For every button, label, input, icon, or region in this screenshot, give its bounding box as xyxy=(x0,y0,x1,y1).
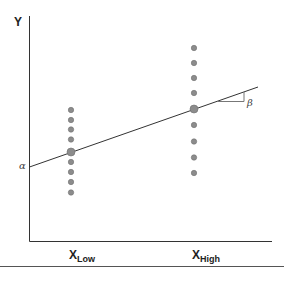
data-point xyxy=(191,45,196,50)
data-point xyxy=(68,179,73,184)
data-point xyxy=(68,169,73,174)
data-point xyxy=(191,155,196,160)
data-point xyxy=(68,190,73,195)
data-point xyxy=(68,159,73,164)
x-high-dots xyxy=(190,45,198,175)
intercept-label: α xyxy=(19,160,26,171)
x-low-label-sub: Low xyxy=(77,254,95,264)
data-point xyxy=(191,60,196,65)
mean-point xyxy=(190,105,198,113)
data-point xyxy=(191,122,196,127)
data-point xyxy=(68,127,73,132)
regression-line xyxy=(30,87,259,167)
data-point xyxy=(191,170,196,175)
slope-label: β xyxy=(247,97,253,108)
x-low-label: XLow xyxy=(69,248,95,264)
data-point xyxy=(191,90,196,95)
mean-point xyxy=(67,148,75,156)
x-high-label: XHigh xyxy=(192,248,220,264)
x-low-dots xyxy=(67,107,75,195)
data-point xyxy=(191,139,196,144)
regression-diagram xyxy=(0,0,284,282)
y-axis-label: Y xyxy=(14,15,22,29)
x-low-label-main: X xyxy=(69,248,77,262)
x-high-label-main: X xyxy=(192,248,200,262)
data-point xyxy=(68,117,73,122)
data-point xyxy=(68,107,73,112)
data-point xyxy=(68,137,73,142)
data-point xyxy=(191,75,196,80)
x-high-label-sub: High xyxy=(200,254,220,264)
